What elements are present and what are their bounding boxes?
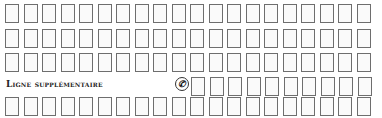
char-input-box[interactable] (42, 53, 56, 72)
char-input-box[interactable] (61, 4, 75, 23)
char-input-box[interactable] (172, 4, 186, 23)
char-row-3 (5, 53, 371, 72)
char-input-box[interactable] (301, 4, 315, 23)
char-input-box[interactable] (116, 97, 130, 116)
char-input-box[interactable] (153, 4, 167, 23)
char-input-box[interactable] (264, 4, 278, 23)
char-input-box[interactable] (357, 53, 371, 72)
char-input-box[interactable] (246, 97, 260, 116)
char-input-box[interactable] (302, 77, 316, 96)
char-input-box[interactable] (190, 29, 204, 48)
char-input-box[interactable] (153, 53, 167, 72)
char-input-box[interactable] (24, 53, 38, 72)
char-input-box[interactable] (61, 29, 75, 48)
char-input-box[interactable] (246, 29, 260, 48)
char-input-box[interactable] (246, 4, 260, 23)
char-input-box[interactable] (357, 29, 371, 48)
char-input-box[interactable] (357, 4, 371, 23)
char-input-box[interactable] (209, 4, 223, 23)
char-input-box[interactable] (116, 29, 130, 48)
char-input-box[interactable] (247, 77, 261, 96)
char-input-box[interactable] (98, 29, 112, 48)
char-input-box[interactable] (153, 29, 167, 48)
char-input-box[interactable] (5, 4, 19, 23)
char-input-box[interactable] (209, 29, 223, 48)
char-input-box[interactable] (265, 77, 279, 96)
char-row-2 (5, 29, 371, 48)
char-input-box[interactable] (283, 4, 297, 23)
char-input-box[interactable] (135, 4, 149, 23)
char-input-box[interactable] (5, 53, 19, 72)
char-input-box[interactable] (79, 97, 93, 116)
char-input-box[interactable] (153, 97, 167, 116)
char-input-box[interactable] (228, 77, 242, 96)
char-input-box[interactable] (264, 53, 278, 72)
char-input-box[interactable] (338, 97, 352, 116)
char-input-box[interactable] (190, 97, 204, 116)
char-input-box[interactable] (246, 53, 260, 72)
char-input-box[interactable] (301, 53, 315, 72)
char-input-box[interactable] (320, 97, 334, 116)
char-input-box[interactable] (61, 53, 75, 72)
char-input-box[interactable] (172, 97, 186, 116)
char-input-box[interactable] (5, 29, 19, 48)
char-input-box[interactable] (321, 77, 335, 96)
char-input-box[interactable] (42, 97, 56, 116)
char-input-box[interactable] (320, 53, 334, 72)
char-input-box[interactable] (284, 77, 298, 96)
char-input-box[interactable] (338, 29, 352, 48)
char-input-box[interactable] (135, 29, 149, 48)
char-input-box[interactable] (5, 97, 19, 116)
char-input-box[interactable] (24, 29, 38, 48)
char-input-box[interactable] (227, 29, 241, 48)
char-input-box[interactable] (358, 77, 372, 96)
char-input-box[interactable] (301, 97, 315, 116)
char-input-box[interactable] (98, 97, 112, 116)
phone-icon: ✆ (175, 77, 189, 91)
char-input-box[interactable] (227, 53, 241, 72)
char-input-box[interactable] (79, 53, 93, 72)
char-input-box[interactable] (357, 97, 371, 116)
char-input-box[interactable] (264, 29, 278, 48)
char-row-1 (5, 4, 371, 23)
char-input-box[interactable] (320, 4, 334, 23)
char-input-box[interactable] (339, 77, 353, 96)
char-input-box[interactable] (301, 29, 315, 48)
char-input-box[interactable] (116, 4, 130, 23)
char-row-5 (5, 97, 371, 116)
char-input-box[interactable] (227, 4, 241, 23)
char-input-box[interactable] (283, 29, 297, 48)
char-input-box[interactable] (24, 97, 38, 116)
char-input-box[interactable] (79, 29, 93, 48)
char-input-box[interactable] (42, 29, 56, 48)
char-input-box[interactable] (191, 77, 205, 96)
char-input-box[interactable] (320, 29, 334, 48)
char-input-box[interactable] (24, 4, 38, 23)
char-input-box[interactable] (227, 97, 241, 116)
char-input-box[interactable] (172, 53, 186, 72)
char-input-box[interactable] (283, 53, 297, 72)
char-input-box[interactable] (338, 53, 352, 72)
char-input-box[interactable] (116, 53, 130, 72)
char-input-box[interactable] (338, 4, 352, 23)
char-input-box[interactable] (209, 97, 223, 116)
char-input-box[interactable] (190, 4, 204, 23)
char-input-box[interactable] (190, 53, 204, 72)
char-input-box[interactable] (98, 53, 112, 72)
char-input-box[interactable] (172, 29, 186, 48)
char-input-box[interactable] (79, 4, 93, 23)
char-input-box[interactable] (135, 97, 149, 116)
char-input-box[interactable] (42, 4, 56, 23)
char-input-box[interactable] (61, 97, 75, 116)
char-input-box[interactable] (210, 77, 224, 96)
char-input-box[interactable] (135, 53, 149, 72)
extra-line-label: Ligne supplémentaire (6, 79, 103, 89)
char-input-box[interactable] (283, 97, 297, 116)
char-input-box[interactable] (209, 53, 223, 72)
phone-char-row (191, 77, 372, 96)
char-input-box[interactable] (98, 4, 112, 23)
char-input-box[interactable] (264, 97, 278, 116)
